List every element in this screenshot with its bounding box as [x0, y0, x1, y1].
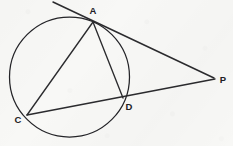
secant-line-cdp	[27, 79, 215, 115]
geometry-diagram-svg: A C D P	[0, 0, 233, 146]
point-label-c: C	[14, 114, 21, 125]
vertex-labels-group: A C D P	[14, 5, 226, 125]
point-label-d: D	[125, 101, 132, 112]
point-label-p: P	[220, 74, 227, 85]
geometry-figure-canvas: A C D P	[0, 0, 233, 146]
tangent-line-at-a	[53, 2, 214, 78]
point-label-a: A	[89, 5, 96, 16]
main-circle	[10, 17, 130, 137]
chord-line-ac	[27, 22, 93, 115]
